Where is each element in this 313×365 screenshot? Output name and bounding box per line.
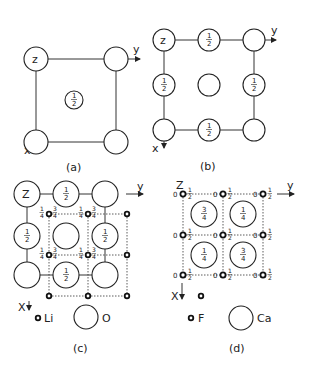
fraction-half: 1 2 [24,228,30,244]
svg-text:0: 0 [213,272,217,280]
svg-text:1: 1 [188,267,192,274]
svg-text:2: 2 [188,193,192,200]
fluorine-site: 0 1 2 [253,227,272,241]
legend-li-label: Li [44,312,53,325]
lithium-atom [47,253,52,258]
fraction-half: 1 2 [71,92,77,108]
svg-text:2: 2 [268,274,272,281]
svg-text:2: 2 [268,193,272,200]
svg-text:2: 2 [64,275,68,283]
svg-text:1: 1 [228,267,232,274]
fraction-quarter: 1 4 [201,247,207,263]
oxygen-atom [92,262,118,288]
caption-d: (d) [229,342,245,355]
y-axis-label: y [271,24,278,37]
fraction-half: 1 2 [206,122,212,138]
svg-text:0: 0 [253,191,257,199]
svg-text:4: 4 [53,212,57,219]
svg-text:2: 2 [207,40,211,48]
corner-atom [104,47,128,71]
caption-a: (a) [66,161,81,174]
panel-b: y x z 1 2 1 2 1 2 1 2 [152,24,278,173]
svg-text:1: 1 [103,228,107,236]
svg-text:1: 1 [228,186,232,193]
svg-text:1: 1 [25,228,29,236]
svg-text:0: 0 [213,191,217,199]
svg-text:2: 2 [25,236,29,244]
fluorine-site: 0 1 2 [213,267,232,281]
svg-text:4: 4 [202,214,207,222]
svg-text:1: 1 [228,227,232,234]
x-axis-label: X [171,290,179,303]
fluorine-atom-extra [199,294,204,299]
svg-text:2: 2 [228,193,232,200]
svg-text:1: 1 [79,246,83,253]
caption-c: (c) [73,342,88,355]
svg-text:0: 0 [173,191,177,199]
fluorine-site: 0 1 2 [253,267,272,281]
legend-f-label: F [198,312,204,325]
svg-text:4: 4 [202,255,207,263]
corner-atom [153,119,175,141]
svg-text:0: 0 [173,272,177,280]
panel-c: Z 1 2 1 2 1 2 1 2 [14,180,144,355]
svg-text:1: 1 [207,32,211,40]
x-axis-label: X [18,301,26,314]
legend-ca-symbol [229,306,253,330]
lithium-atom [86,253,91,258]
svg-text:2: 2 [103,236,107,244]
svg-text:1: 1 [188,186,192,193]
face-center-atom [198,74,220,96]
lithium-atom [125,253,130,258]
fluorine-site: 0 1 2 [173,227,192,241]
svg-text:1: 1 [252,77,256,85]
lithium-atom [47,212,52,217]
svg-text:2: 2 [228,274,232,281]
svg-text:2: 2 [252,85,256,93]
svg-text:0: 0 [173,232,177,240]
svg-text:2: 2 [228,234,232,241]
legend-li-symbol [36,316,41,321]
fraction-half: 1 2 [251,77,257,93]
oxygen-atom [14,262,40,288]
fraction-half: 1 2 [102,228,108,244]
oxygen-atom [53,223,79,249]
corner-atom [243,119,265,141]
panel-a: y x z 1 2 (a) [24,43,140,174]
svg-text:3: 3 [53,205,57,212]
svg-text:2: 2 [162,85,166,93]
svg-text:2: 2 [268,234,272,241]
y-axis-label: y [287,179,294,192]
legend-o-symbol [74,305,98,329]
svg-text:4: 4 [40,212,44,219]
x-axis-label: x [152,142,159,155]
legend-o-label: O [102,312,111,325]
svg-text:0: 0 [253,232,257,240]
svg-text:2: 2 [64,194,68,202]
fraction-half: 1 2 [63,186,69,202]
svg-text:1: 1 [268,267,272,274]
svg-text:1: 1 [40,246,44,253]
fraction-half: 1 2 [206,32,212,48]
svg-text:1: 1 [64,267,68,275]
oxygen-atom [92,181,118,207]
fluorine-site: 0 1 2 [213,186,232,200]
svg-text:1: 1 [188,227,192,234]
svg-text:4: 4 [53,253,57,260]
svg-text:3: 3 [92,205,96,212]
z-axis-label: z [160,34,166,47]
fraction-half: 1 2 [161,77,167,93]
legend-f-symbol [189,316,194,321]
z-axis-label: Z [22,188,30,201]
legend-ca-label: Ca [257,312,271,325]
svg-text:3: 3 [202,206,206,214]
svg-text:2: 2 [72,100,76,108]
lithium-atom [125,294,130,299]
svg-text:3: 3 [92,246,96,253]
svg-text:1: 1 [79,205,83,212]
corner-atom [104,130,128,154]
svg-text:2: 2 [188,234,192,241]
svg-text:2: 2 [207,130,211,138]
svg-text:0: 0 [253,272,257,280]
z-axis-label: z [32,53,38,66]
